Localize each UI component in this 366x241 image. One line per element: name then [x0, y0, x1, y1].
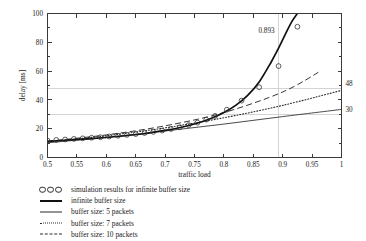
- y-tick-label: 0: [39, 154, 43, 162]
- legend-item-infinite: infinite buffer size: [38, 195, 338, 206]
- x-axis-title: traffic load: [178, 170, 211, 179]
- plot-frame: [48, 14, 342, 158]
- legend-item-buffer-10: buffer size: 10 packets: [38, 229, 338, 240]
- chart-legend: simulation results for infinite buffer s…: [38, 184, 338, 240]
- legend-key-circles-icon: [38, 184, 66, 195]
- legend-label-buffer-5: buffer size: 5 packets: [66, 207, 134, 216]
- x-tick-label: 0.75: [188, 161, 201, 169]
- legend-key-dotted-icon: [38, 218, 66, 229]
- annotation-label-30: 30: [346, 106, 354, 114]
- legend-label-infinite: infinite buffer size: [66, 196, 125, 205]
- x-tick-label: 0.65: [129, 161, 142, 169]
- legend-label-buffer-10: buffer size: 10 packets: [66, 230, 138, 239]
- y-tick-label: 80: [36, 39, 44, 47]
- x-tick-label: 0.55: [71, 161, 84, 169]
- legend-item-buffer-7: buffer size: 7 packets: [38, 218, 338, 229]
- legend-item-buffer-5: buffer size: 5 packets: [38, 206, 338, 217]
- y-axis-title: delay [ms]: [18, 70, 27, 101]
- x-tick-label: 0.85: [247, 161, 260, 169]
- y-tick-label: 20: [36, 125, 44, 133]
- x-tick-label: 0.8: [219, 161, 228, 169]
- x-tick-label: 1: [340, 161, 344, 169]
- x-tick-label: 0.95: [306, 161, 319, 169]
- x-tick-label: 0.5: [43, 161, 52, 169]
- annotation-label-vertical: 0.893: [258, 27, 275, 35]
- annotation-label-48: 48: [346, 80, 354, 88]
- legend-label-buffer-7: buffer size: 7 packets: [66, 219, 134, 228]
- x-tick-label: 0.6: [102, 161, 111, 169]
- data-point-marker: [257, 85, 262, 90]
- chart-figure: 0.50.550.60.650.70.750.80.850.90.9510204…: [0, 0, 366, 241]
- y-tick-label: 40: [36, 97, 44, 105]
- legend-key-dashed-icon: [38, 229, 66, 240]
- series-curve-buffer-7: [48, 90, 342, 141]
- y-tick-label: 60: [36, 68, 44, 76]
- legend-key-solid-thin-icon: [38, 206, 66, 217]
- legend-key-solid-thick-icon: [38, 195, 66, 206]
- x-tick-label: 0.7: [161, 161, 170, 169]
- legend-label-simulation: simulation results for infinite buffer s…: [66, 185, 190, 194]
- legend-item-simulation: simulation results for infinite buffer s…: [38, 184, 338, 195]
- series-markers-simulation: [45, 24, 300, 143]
- y-tick-label: 100: [32, 10, 43, 18]
- x-tick-label: 0.9: [278, 161, 287, 169]
- data-point-marker: [295, 24, 300, 29]
